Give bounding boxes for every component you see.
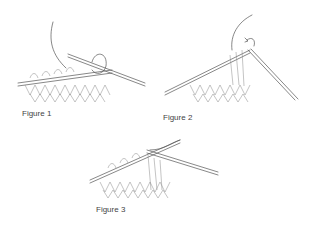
rotation-arrow-icon <box>247 38 255 46</box>
figure-3-caption: Figure 3 <box>96 205 125 214</box>
right-needle <box>68 54 145 83</box>
figure-3-illustration <box>90 140 218 198</box>
figure-2-illustration <box>165 15 298 102</box>
working-yarn <box>232 15 252 50</box>
figure-2-caption: Figure 2 <box>163 113 192 122</box>
figure-1-caption: Figure 1 <box>22 109 51 118</box>
working-yarn <box>51 22 66 68</box>
figure-1-illustration <box>18 22 145 102</box>
